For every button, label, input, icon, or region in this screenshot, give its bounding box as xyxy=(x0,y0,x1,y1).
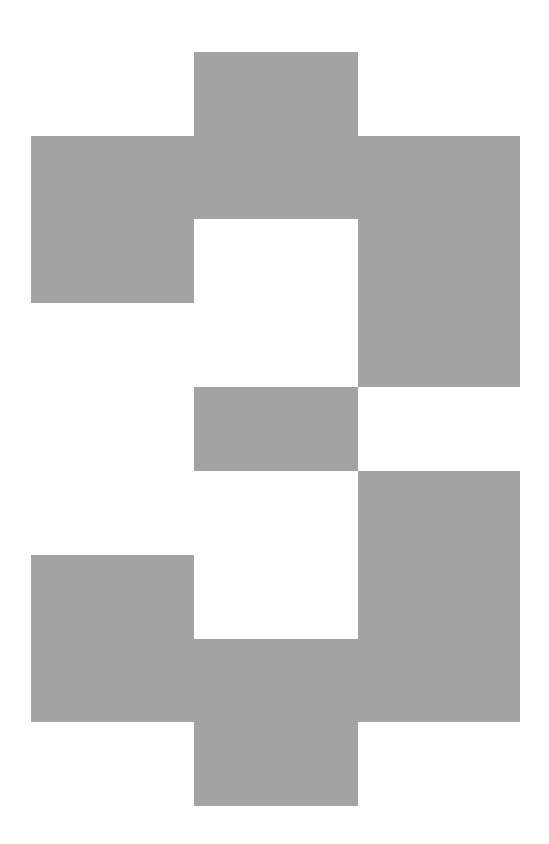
bottom-tab-block xyxy=(194,722,358,806)
top-tab-block xyxy=(194,52,358,136)
digit-three-figure xyxy=(0,0,549,844)
upper-left-arm-block xyxy=(31,219,194,303)
lower-right-column-block xyxy=(358,471,520,639)
bottom-band-block xyxy=(31,639,520,722)
center-bar-block xyxy=(194,387,358,471)
lower-left-arm-block xyxy=(31,555,194,639)
top-band-block xyxy=(31,136,520,219)
upper-right-column-block xyxy=(358,219,520,387)
